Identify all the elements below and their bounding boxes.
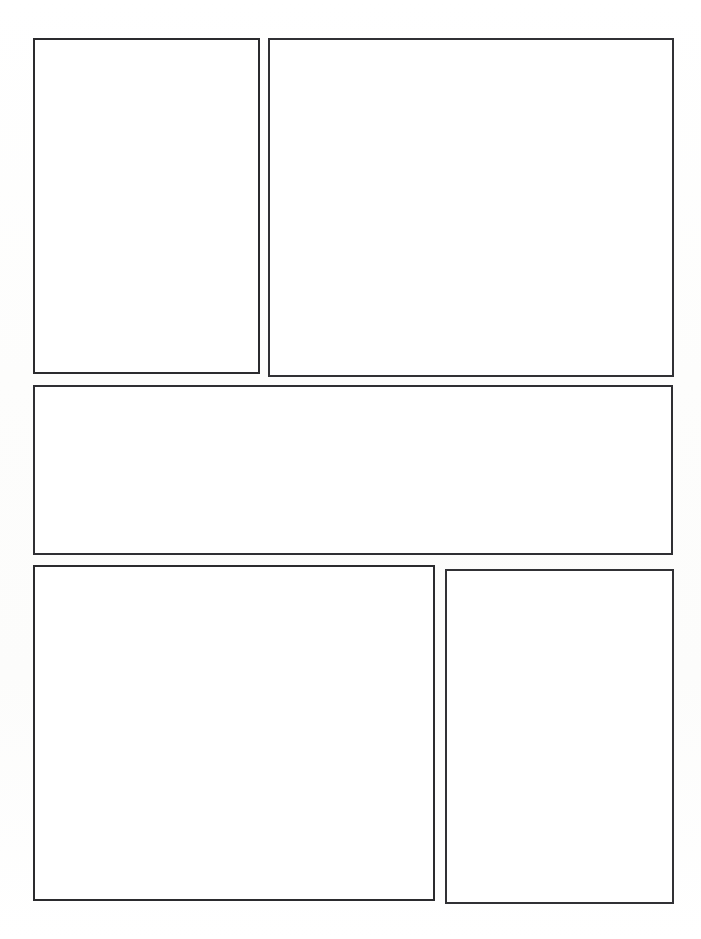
comic-panel-4-content	[35, 567, 433, 899]
comic-panel-3-content	[35, 387, 671, 553]
comic-panel-3[interactable]	[33, 385, 673, 555]
comic-panel-1[interactable]	[33, 38, 260, 374]
comic-panel-5[interactable]	[445, 569, 674, 904]
comic-panel-1-content	[35, 40, 258, 372]
comic-panel-5-content	[447, 571, 672, 902]
comic-panel-2[interactable]	[268, 38, 674, 377]
comic-panel-2-content	[270, 40, 672, 375]
comic-page	[0, 0, 701, 939]
comic-panel-4[interactable]	[33, 565, 435, 901]
